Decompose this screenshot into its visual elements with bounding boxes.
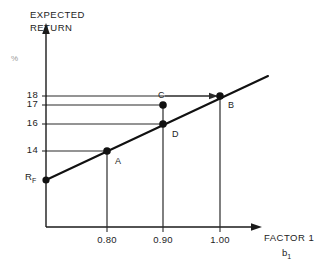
point-label-b: B <box>228 100 234 110</box>
x-tick-label-080: 0.80 <box>90 235 124 246</box>
y-tick-label-17: 17 <box>18 99 38 110</box>
rf-label-subscript: F <box>32 177 36 184</box>
vertical-reference-lines <box>107 96 220 227</box>
y-tick-label-16: 16 <box>18 118 38 129</box>
point-b <box>216 92 224 100</box>
point-label-c: C <box>158 90 165 100</box>
x-axis-symbol-subscript: 1 <box>287 253 291 260</box>
point-a <box>103 147 111 155</box>
point-rf <box>42 176 49 183</box>
c-annotation-arrow <box>165 93 218 99</box>
x-axis-title: FACTOR 1 <box>264 233 314 244</box>
y-tick-label-14: 14 <box>18 145 38 156</box>
x-tick-label-100: 1.00 <box>203 235 237 246</box>
point-label-a: A <box>115 156 121 166</box>
y-axis-unit-label: % <box>11 54 18 63</box>
x-tick-label-090: 0.90 <box>146 235 180 246</box>
x-axis-symbol: b1 <box>282 248 291 261</box>
y-axis-title-line1: EXPECTED <box>30 10 85 21</box>
y-axis-title-line2: RETURN <box>30 23 72 34</box>
x-tick-marks <box>107 227 220 232</box>
axes-group <box>42 23 262 231</box>
horizontal-reference-lines <box>46 96 220 151</box>
point-d <box>159 120 167 128</box>
rf-intercept-label: RF <box>25 172 36 185</box>
rf-label-base: R <box>25 171 32 182</box>
point-c-dot <box>159 101 167 109</box>
x-axis-arrowhead <box>251 223 262 231</box>
point-label-d: D <box>172 129 179 139</box>
security-market-line <box>46 76 268 180</box>
figure-canvas: EXPECTED RETURN % 18 17 16 14 0.80 0.90 … <box>0 0 332 274</box>
